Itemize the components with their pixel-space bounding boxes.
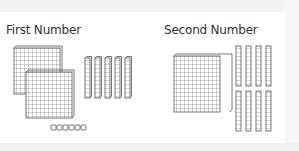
hundreds-flat xyxy=(174,54,232,112)
tens-rods xyxy=(236,46,271,131)
ones-cubes xyxy=(51,125,86,130)
base-ten-blocks xyxy=(0,0,299,151)
hundreds-flat xyxy=(26,70,74,118)
tens-rods xyxy=(85,57,132,99)
